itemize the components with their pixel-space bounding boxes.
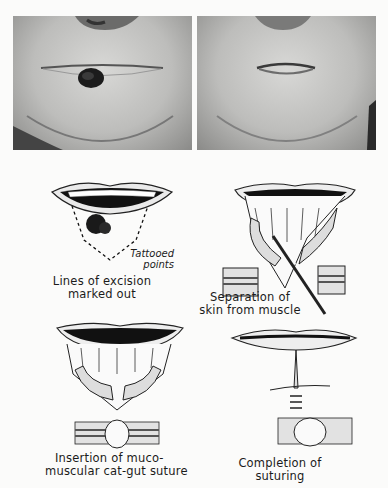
figure-insertion-of-suture [55,322,185,452]
caption-lines-of-excision: Lines of excision marked out [42,275,162,301]
caption-line-2: skin from muscle [190,304,310,317]
caption-completion-of-suturing: Completion of suturing [230,457,330,483]
note-tattooed-points: Tattooed points [118,248,174,270]
caption-line-2: muscular cat-gut suture [45,465,200,478]
photo-after [197,16,376,150]
note-line-2: points [118,259,174,270]
caption-line-2: suturing [230,470,330,483]
figure-completion-of-suturing [230,322,360,452]
caption-insertion-of-suture: Insertion of muco- muscular cat-gut sutu… [45,452,200,478]
caption-line-2: marked out [42,288,162,301]
photo-before [13,16,192,150]
note-line-1: Tattooed [118,248,174,259]
caption-separation-of-skin: Separation of skin from muscle [190,291,310,317]
